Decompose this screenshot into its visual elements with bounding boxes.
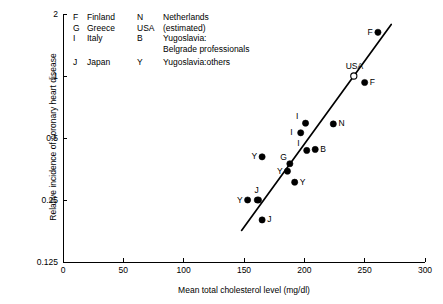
legend-row: FFinlandNNetherlands [73,12,249,23]
legend-name1 [87,44,137,55]
data-point-i-9 [302,120,308,126]
data-point-b-11 [312,146,318,152]
x-tick-label-0: 0 [43,266,83,275]
legend-key1 [73,44,87,55]
x-tick-label-200: 200 [284,266,324,275]
data-point-j-2 [254,197,260,203]
point-label-usa-13: USA [346,62,363,71]
data-point-y-4 [259,154,265,160]
legend-name2: Yugoslavia: [163,33,249,44]
legend-name2: (estimated) [163,23,249,34]
x-tick-label-150: 150 [224,266,264,275]
legend-row: JJapanYYugoslavia:others [73,54,249,68]
data-point-g-7 [287,161,293,167]
chart-figure: 0.1250.250.512 050100150200250300 YJJYYY… [0,0,443,304]
chart-legend: FFinlandNNetherlandsGGreeceUSA(estimated… [73,12,249,68]
point-label-i-10: I [297,139,299,148]
legend-key2: Y [137,54,163,68]
point-label-y-4: Y [252,152,258,161]
point-label-y-0: Y [237,196,243,205]
legend-name1: Italy [87,33,137,44]
legend-key1: I [73,33,87,44]
data-point-n-12 [330,121,336,127]
x-axis-title: Mean total cholesterol level (mg/dl) [63,285,425,295]
data-points [245,29,382,223]
legend-key1: F [73,12,87,23]
legend-name2: Belgrade professionals [163,44,249,55]
legend-key2 [137,44,163,55]
legend-key1: J [73,54,87,68]
legend-table: FFinlandNNetherlandsGGreeceUSA(estimated… [73,12,249,68]
legend-name1: Greece [87,23,137,34]
data-point-f-15 [375,29,381,35]
y-tick-label-2: 2 [15,10,58,19]
x-tick-label-250: 250 [345,266,385,275]
x-tick-label-300: 300 [405,266,443,275]
point-label-g-7: G [280,153,287,162]
legend-row: GGreeceUSA(estimated) [73,23,249,34]
legend-row: IItalyBYugoslavia: [73,33,249,44]
point-label-y-5: Y [277,167,283,176]
data-point-f-14 [362,79,368,85]
point-label-y-6: Y [300,178,306,187]
legend-name1: Finland [87,12,137,23]
legend-key2: N [137,12,163,23]
point-label-f-15: F [367,28,372,37]
data-point-y-6 [292,179,298,185]
x-tick-label-50: 50 [103,266,143,275]
data-point-y-5 [284,168,290,174]
data-point-i-10 [304,147,310,153]
point-label-n-12: N [338,119,344,128]
data-point-i-8 [298,130,304,136]
data-point-usa-13 [351,73,357,79]
legend-key2: B [137,33,163,44]
trend-line [242,24,392,230]
y-axis-title: Relative incidence of coronary heart dis… [48,22,58,252]
point-label-b-11: B [320,145,326,154]
x-tick-label-100: 100 [164,266,204,275]
data-point-y-0 [245,197,251,203]
point-label-f-14: F [370,78,375,87]
legend-name2: Yugoslavia:others [163,54,249,68]
point-label-i-8: I [290,128,292,137]
point-label-j-2: J [255,186,259,195]
legend-name1: Japan [87,54,137,68]
legend-key2: USA [137,23,163,34]
legend-name2: Netherlands [163,12,249,23]
legend-row: Belgrade professionals [73,44,249,55]
legend-key1: G [73,23,87,34]
point-label-i-9: I [296,112,298,121]
data-point-j-3 [259,217,265,223]
point-label-j-3: J [267,215,271,224]
